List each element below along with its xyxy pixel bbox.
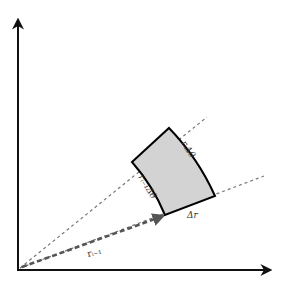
radius-vector-label: rᵢ₋₁ (86, 246, 102, 259)
polar-sector (132, 128, 215, 215)
radial-side-label: Δr (186, 210, 198, 220)
svg-text:rᵢ₋₁: rᵢ₋₁ (86, 246, 102, 259)
svg-text:Δr: Δr (186, 210, 198, 220)
diagram-canvas: rᵢΔθ rᵢ₋₁Δθ Δr rᵢ₋₁ (0, 0, 299, 288)
